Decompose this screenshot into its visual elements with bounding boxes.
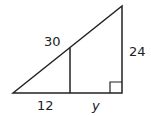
- label-base-12: 12: [37, 98, 54, 113]
- label-side-24: 24: [129, 44, 146, 59]
- label-hypotenuse-30: 30: [44, 34, 61, 49]
- right-angle-marker: [110, 82, 122, 93]
- triangle-diagram: 30 24 12 y: [0, 0, 151, 116]
- outer-right-triangle: [13, 6, 122, 93]
- label-base-y: y: [91, 98, 100, 113]
